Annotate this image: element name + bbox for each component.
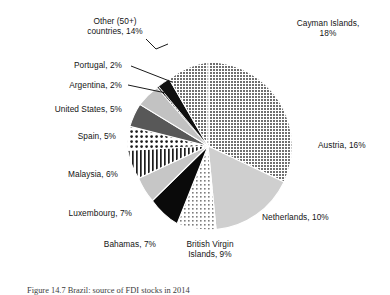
pie-slices xyxy=(128,62,292,230)
pie-label-bahamas: Bahamas, 7% xyxy=(30,239,156,249)
pie-label-united-states: United States, 5% xyxy=(0,104,122,114)
pie-label-british-virgin-islands: British Virgin Islands, 9% xyxy=(166,239,254,259)
pie-label-malaysia: Malaysia, 6% xyxy=(2,169,118,179)
pie-label-cayman-islands: Cayman Islands, 18% xyxy=(276,18,380,38)
pie-chart-figure: Other (50+) countries, 14% Portugal, 2% … xyxy=(0,0,390,295)
pie-label-portugal: Portugal, 2% xyxy=(10,60,122,70)
pie-label-spain: Spain, 5% xyxy=(6,131,116,141)
figure-caption: Figure 14.7 Brazil: source of FDI stocks… xyxy=(27,286,367,295)
leader-line-portugal xyxy=(131,66,172,82)
pie-label-luxembourg: Luxembourg, 7% xyxy=(6,208,132,218)
pie-label-other-countries: Other (50+) countries, 14% xyxy=(60,16,170,36)
pie-label-austria: Austria, 16% xyxy=(318,140,390,150)
pie-label-netherlands: Netherlands, 10% xyxy=(262,212,388,222)
pie-label-argentina: Argentina, 2% xyxy=(6,80,122,90)
leader-line-other-countries xyxy=(146,39,168,49)
